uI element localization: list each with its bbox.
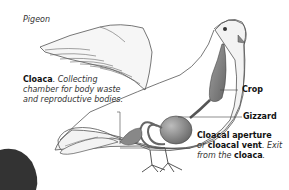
adjacent-image-fragment [0, 149, 37, 190]
term-cloaca: Cloaca [23, 75, 53, 84]
gizzard [160, 116, 192, 144]
label-crop: Crop [242, 85, 263, 94]
diagram-title: Pigeon [23, 15, 50, 24]
cloaca [120, 128, 142, 145]
label-gizzard: Gizzard [243, 112, 277, 121]
crop [209, 44, 226, 102]
esophagus [190, 100, 210, 118]
pigeon-legs [142, 148, 182, 172]
label-cloacal-aperture: Cloacal aperture or cloacal vent. Exit f… [197, 131, 289, 161]
label-cloaca: Cloaca. Collecting chamber for body wast… [23, 75, 143, 105]
pigeon-eye [223, 27, 227, 31]
